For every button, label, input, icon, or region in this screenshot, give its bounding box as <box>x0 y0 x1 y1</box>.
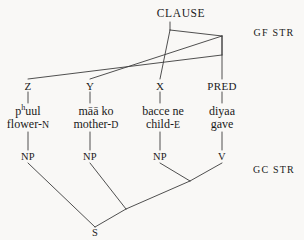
gloss-flower-gram: N <box>42 119 49 130</box>
gloss-child-gram: E <box>174 119 180 130</box>
edge-mid-to-s <box>95 209 126 227</box>
clause-root-label: CLAUSE <box>157 8 205 20</box>
edge-corner-to-z <box>28 55 222 79</box>
gc-node-np2: NP <box>83 152 97 163</box>
gloss-child-e: child-E <box>146 118 180 130</box>
word-maa-ko: māā ko <box>79 105 114 117</box>
gloss-gave: gave <box>211 118 234 130</box>
syntax-tree-diagram: CLAUSE GF STR GC STR Z Y X PRED phuul mā… <box>0 0 304 240</box>
gf-node-pred: PRED <box>207 81 236 92</box>
gc-node-s: S <box>92 228 98 239</box>
edge-np3-to-vp <box>160 163 190 181</box>
gloss-flower-n: flower-N <box>7 118 49 130</box>
edge-np2-to-mid <box>90 163 126 209</box>
gf-node-y: Y <box>86 81 94 92</box>
tier-label-gf: GF STR <box>254 28 295 38</box>
edge-v-to-vp <box>190 163 222 181</box>
gloss-mother-gram: D <box>111 119 118 130</box>
gloss-mother-d: mother-D <box>73 118 118 130</box>
gloss-flower-stem: flower- <box>7 117 42 131</box>
gc-node-np3: NP <box>153 152 167 163</box>
word-bacce-ne: bacce ne <box>142 105 184 117</box>
gloss-child-stem: child- <box>146 117 174 131</box>
tier-label-gc: GC STR <box>253 165 295 175</box>
word-phuul-post: uul <box>25 104 40 118</box>
edge-clause-to-corner <box>170 30 222 36</box>
word-diyaa: diyaa <box>209 105 235 117</box>
gloss-mother-stem: mother- <box>73 117 111 131</box>
gc-node-v: V <box>218 152 226 163</box>
gf-node-x: X <box>156 81 164 92</box>
gc-node-np1: NP <box>21 152 35 163</box>
gf-node-z: Z <box>24 81 31 92</box>
word-phuul: phuul <box>15 105 40 117</box>
edge-np1-to-s <box>28 163 95 227</box>
edge-vp-to-mid <box>126 181 190 209</box>
